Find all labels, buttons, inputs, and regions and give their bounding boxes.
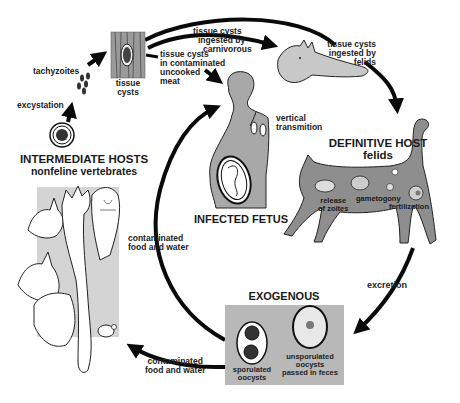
excretion-label: excretion [367,281,407,290]
arrow-excystation [68,108,71,122]
food-water-outer-label: contaminated food and water [145,357,205,375]
infected-fetus-title: INFECTED FETUS [186,213,296,225]
vertical-transmission-label: vertical transmition [276,114,322,132]
arrow-tachyzoites [88,55,102,65]
uncooked-meat-label: tissue cysts in contaminated uncooked me… [160,50,225,86]
oocyst-icon [50,123,74,147]
unsporulated-oocysts-label: unsporulated oocysts passed in feces [279,353,341,377]
tissue-cysts-label: tissue cysts [110,79,146,97]
definitive-host-title: DEFINITIVE HOST felids [318,137,438,161]
excystation-label: excystation [17,101,64,110]
tachyzoites-label: tachyzoites [33,67,79,76]
intermediate-hosts-title: INTERMEDIATE HOSTS nonfeline vertebrates [14,153,154,177]
cyst-icon [111,32,145,78]
animal-collage-icon [18,186,120,372]
arrow-meat-line [146,55,158,57]
release-label: release of zoites [318,197,348,213]
felids-ingest-label: tissue cysts ingested by felids [326,40,376,67]
fertilization-label: fertilization [389,203,429,211]
sporulated-oocysts-label: sporulated oocysts [229,366,275,382]
exogenous-title: EXOGENOUS [244,290,324,302]
arrow-fox-to-cat [365,62,397,108]
food-water-inner-label: contaminated food and water [128,234,188,252]
